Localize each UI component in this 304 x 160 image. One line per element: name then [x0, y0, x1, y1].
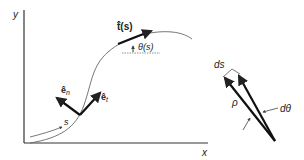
radius-arrow-2: [239, 76, 275, 141]
y-axis-label: y: [12, 9, 19, 20]
normal-vector-label: ên: [61, 85, 70, 96]
arc-length-label: s: [64, 117, 69, 127]
rho-label: ρ: [231, 97, 238, 108]
curvature-detail: ds ρ dθ: [214, 59, 292, 141]
dtheta-pointer-lower: [243, 118, 250, 130]
local-frame: ên êt: [57, 85, 109, 115]
radius-arrow-1: [225, 78, 275, 141]
curvature-diagram: y x s t̂(s) θ(s) ên êt ds ρ dθ: [0, 0, 304, 160]
arc-segment: [223, 69, 240, 77]
curve: [30, 32, 192, 143]
dtheta-pointer: [263, 108, 278, 112]
tangent-unit-vector-arrow: [80, 93, 100, 115]
arc-length-indicator: s: [30, 117, 69, 137]
angle-label: θ(s): [138, 42, 153, 52]
dtheta-label: dθ: [280, 103, 292, 114]
x-axis-label: x: [201, 147, 208, 158]
tangent-unit-vector-label: êt: [101, 92, 109, 103]
axes: y x: [12, 9, 208, 158]
ds-label: ds: [214, 59, 225, 70]
tangent-vector: t̂(s) θ(s): [117, 21, 160, 53]
tangent-label: t̂(s): [117, 21, 133, 32]
normal-vector-arrow: [57, 98, 80, 115]
